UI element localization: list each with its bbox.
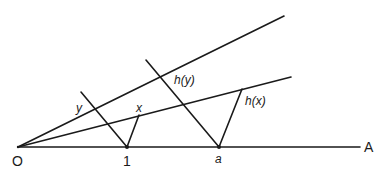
segment-a-to-hx <box>219 89 242 147</box>
upper-ray <box>18 16 284 147</box>
label-o: O <box>12 153 23 169</box>
label-y: y <box>75 101 83 115</box>
geometric-diagram: O 1 a A x y h(x) h(y) <box>0 0 388 171</box>
point-a-dot <box>217 145 221 149</box>
label-x: x <box>135 101 143 115</box>
point-1-dot <box>125 145 129 149</box>
line-through-1 <box>81 92 127 147</box>
label-a: a <box>215 152 222 166</box>
label-hy: h(y) <box>174 73 195 87</box>
point-o-dot <box>17 146 19 148</box>
label-A: A <box>364 139 374 155</box>
segment-1-to-x <box>127 115 139 147</box>
label-hx: h(x) <box>245 94 266 108</box>
lower-ray <box>18 77 291 147</box>
label-1: 1 <box>123 153 131 169</box>
